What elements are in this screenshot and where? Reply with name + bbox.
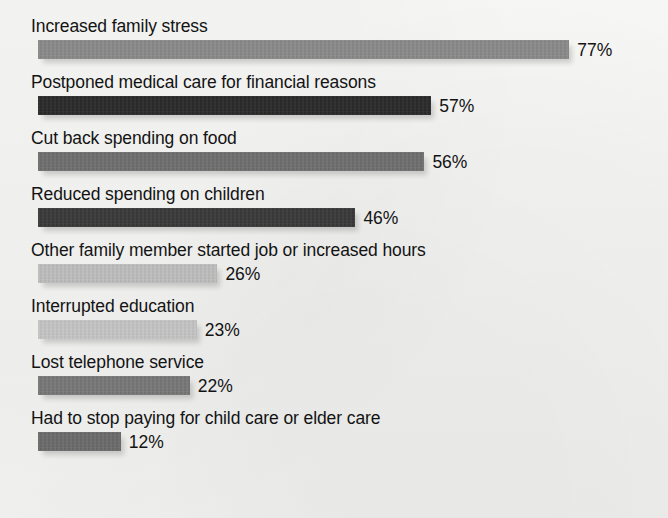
bar-value-label: 23% <box>205 321 240 340</box>
bar-category-label: Postponed medical care for financial rea… <box>31 72 376 93</box>
bar-texture <box>38 376 190 395</box>
bar-category-label: Increased family stress <box>31 16 208 37</box>
bar-value-label: 46% <box>363 209 398 228</box>
bar-category-label: Cut back spending on food <box>31 128 237 149</box>
bar-texture <box>38 152 424 171</box>
bar-texture <box>38 208 355 227</box>
bar-value-label: 12% <box>129 433 164 452</box>
bar <box>38 40 569 59</box>
bar-value-label: 77% <box>577 41 612 60</box>
bar-value-label: 22% <box>198 377 233 396</box>
bar <box>38 432 121 451</box>
bar <box>38 208 355 227</box>
bar <box>38 320 197 339</box>
bar-texture <box>38 320 197 339</box>
bar-category-label: Lost telephone service <box>31 352 204 373</box>
bar-category-label: Reduced spending on children <box>31 184 265 205</box>
bar-texture <box>38 40 569 59</box>
bar-category-label: Had to stop paying for child care or eld… <box>31 408 380 429</box>
bar-texture <box>38 96 431 115</box>
bar <box>38 152 424 171</box>
bar-category-label: Interrupted education <box>31 296 194 317</box>
bar <box>38 96 431 115</box>
horizontal-bar-chart: Increased family stress77%Postponed medi… <box>0 0 668 518</box>
bar <box>38 264 217 283</box>
bar-texture <box>38 264 217 283</box>
bar-value-label: 57% <box>439 97 474 116</box>
bar <box>38 376 190 395</box>
bar-category-label: Other family member started job or incre… <box>31 240 426 261</box>
bar-texture <box>38 432 121 451</box>
bar-value-label: 56% <box>432 153 467 172</box>
bar-value-label: 26% <box>225 265 260 284</box>
